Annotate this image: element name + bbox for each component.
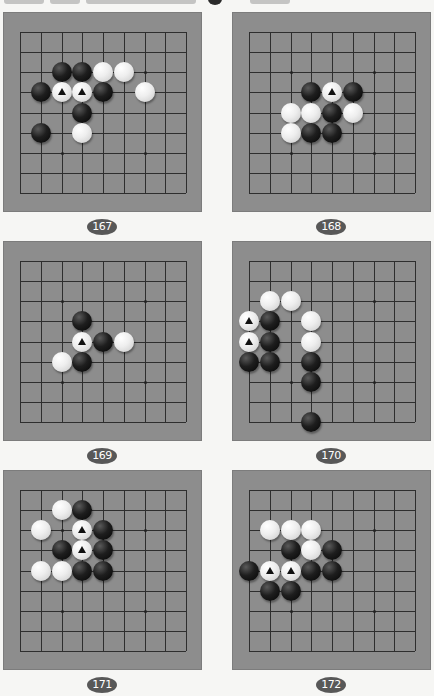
grid-line: [249, 422, 415, 423]
white-stone: [301, 311, 321, 331]
grid-line: [20, 422, 186, 423]
star-point: [373, 381, 376, 384]
black-stone: [260, 311, 280, 331]
go-board: [232, 241, 431, 441]
triangle-mark-icon: [78, 526, 86, 533]
grid-line: [353, 490, 354, 651]
star-point: [373, 300, 376, 303]
white-stone: [31, 561, 51, 581]
white-stone: [301, 332, 321, 352]
triangle-mark-icon: [78, 546, 86, 553]
white-stone: [260, 520, 280, 540]
board-grid: [249, 32, 415, 193]
grid-line: [394, 32, 395, 193]
go-board: [232, 12, 431, 212]
star-point: [144, 300, 147, 303]
grid-line: [20, 362, 186, 363]
black-stone: [281, 581, 301, 601]
grid-line: [249, 631, 415, 632]
problem-number-badge: 170: [316, 448, 346, 464]
black-stone: [239, 352, 259, 372]
grid-line: [20, 591, 186, 592]
black-stone: [72, 62, 92, 82]
white-stone: [239, 311, 259, 331]
triangle-mark-icon: [58, 88, 66, 95]
star-point: [373, 529, 376, 532]
white-stone: [52, 82, 72, 102]
star-point: [61, 529, 64, 532]
black-stone: [301, 123, 321, 143]
board-grid: [20, 261, 186, 422]
grid-line: [124, 32, 125, 193]
star-point: [373, 152, 376, 155]
problem-number-badge: 167: [87, 219, 117, 235]
grid-line: [20, 611, 186, 612]
white-stone: [72, 123, 92, 143]
white-stone: [281, 520, 301, 540]
black-stone: [281, 540, 301, 560]
black-stone: [93, 520, 113, 540]
black-stone: [301, 561, 321, 581]
black-stone: [322, 103, 342, 123]
text-fragment: [86, 0, 196, 4]
grid-line: [20, 382, 186, 383]
star-point: [290, 71, 293, 74]
text-fragment: [250, 0, 290, 4]
white-stone: [281, 561, 301, 581]
clipped-header-text: [0, 0, 434, 7]
black-stone: [72, 500, 92, 520]
grid-line: [20, 631, 186, 632]
grid-line: [374, 261, 375, 422]
black-stone: [239, 561, 259, 581]
grid-line: [374, 32, 375, 193]
black-stone: [260, 332, 280, 352]
black-stone: [301, 82, 321, 102]
triangle-mark-icon: [245, 317, 253, 324]
white-stone: [72, 540, 92, 560]
grid-line: [249, 173, 415, 174]
white-stone: [72, 82, 92, 102]
white-stone: [72, 332, 92, 352]
white-stone: [281, 291, 301, 311]
white-stone: [52, 561, 72, 581]
go-board: [3, 470, 202, 670]
black-stone: [322, 561, 342, 581]
star-point: [144, 610, 147, 613]
go-board: [3, 241, 202, 441]
grid-line: [20, 651, 186, 652]
white-stone: [281, 123, 301, 143]
black-stone: [72, 103, 92, 123]
black-stone: [93, 82, 113, 102]
black-stone: [52, 540, 72, 560]
white-stone: [301, 520, 321, 540]
grid-line: [332, 261, 333, 422]
grid-line: [186, 490, 187, 651]
grid-line: [20, 153, 186, 154]
star-point: [61, 152, 64, 155]
black-stone: [93, 540, 113, 560]
black-stone: [31, 123, 51, 143]
triangle-mark-icon: [266, 567, 274, 574]
black-stone: [52, 62, 72, 82]
problem-number-badge: 168: [316, 219, 346, 235]
white-stone: [114, 62, 134, 82]
triangle-mark-icon: [328, 88, 336, 95]
black-stone: [343, 82, 363, 102]
grid-line: [353, 261, 354, 422]
grid-line: [145, 32, 146, 193]
black-stone: [260, 352, 280, 372]
triangle-mark-icon: [245, 338, 253, 345]
grid-line: [415, 490, 416, 651]
black-stone: [72, 352, 92, 372]
black-stone: [301, 412, 321, 432]
white-stone: [114, 332, 134, 352]
board-grid: [249, 490, 415, 651]
black-stone: [260, 581, 280, 601]
star-point: [144, 529, 147, 532]
black-stone-icon: [208, 0, 222, 5]
grid-line: [394, 490, 395, 651]
grid-line: [186, 261, 187, 422]
problem-number-badge: 172: [316, 677, 346, 693]
board-grid: [20, 32, 186, 193]
black-stone: [72, 311, 92, 331]
